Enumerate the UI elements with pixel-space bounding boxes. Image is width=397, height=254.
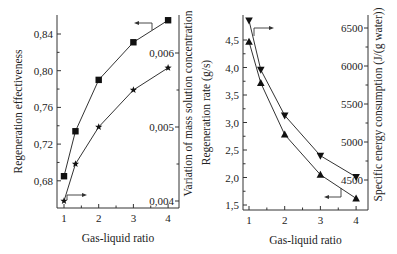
y2-tick-label: 5000	[341, 136, 364, 148]
x-axis-label: Gas-liquid ratio	[269, 234, 342, 247]
y2-tick-label: 6000	[341, 60, 364, 72]
axis-indicator-arrow	[137, 23, 152, 30]
x-tick-label: 1	[246, 214, 252, 226]
y2-tick-label: 4500	[341, 174, 364, 186]
axis-indicator-arrow	[254, 28, 271, 36]
x-tick-label: 3	[131, 212, 137, 224]
triangle-up-marker	[352, 194, 360, 201]
square-marker	[130, 39, 136, 45]
y-tick-label: 2,5	[225, 144, 239, 156]
y2-tick-label: 6500	[341, 22, 364, 34]
right-chart: 12341,52,02,53,03,54,04,5450050005500600…	[200, 7, 385, 247]
y-tick-label: 0,76	[34, 101, 54, 113]
y-tick-label: 0,80	[34, 65, 54, 77]
x-tick-label: 2	[282, 214, 288, 226]
triangle-up-marker	[245, 38, 253, 45]
y2-axis-label: Variation of mass solution concentration	[182, 10, 194, 196]
x-axis-label: Gas-liquid ratio	[82, 232, 155, 245]
y-tick-label: 2,0	[225, 172, 239, 184]
y2-tick-label: 0,004	[149, 195, 174, 207]
y-tick-label: 4,5	[225, 34, 239, 46]
triangle-down-marker	[245, 17, 253, 24]
axis-indicator-arrow	[327, 188, 341, 197]
square-marker	[96, 77, 102, 83]
x-tick-label: 1	[61, 212, 67, 224]
square-marker	[61, 173, 67, 179]
star-marker	[60, 197, 67, 204]
series-line	[64, 68, 168, 201]
x-tick-label: 2	[96, 212, 102, 224]
square-marker	[72, 128, 78, 134]
y2-tick-label: 0,005	[149, 121, 174, 133]
x-tick-label: 3	[318, 214, 324, 226]
y-tick-label: 0,68	[34, 175, 54, 187]
triangle-up-marker	[281, 131, 289, 138]
y-tick-label: 0,84	[34, 28, 54, 40]
square-marker	[165, 17, 171, 23]
y-axis-label: Regeneration rate (g/s)	[200, 60, 213, 166]
chart-canvas: 12340,680,720,760,800,840,0040,0050,006G…	[0, 0, 397, 254]
y2-axis-label: Specific energy consumption (J/(g water)…	[372, 7, 385, 201]
x-tick-label: 4	[165, 212, 171, 224]
y-tick-label: 4,0	[225, 62, 239, 74]
triangle-up-marker	[257, 79, 265, 86]
y-tick-label: 3,5	[225, 89, 239, 101]
left-chart: 12340,680,720,760,800,840,0040,0050,006G…	[12, 10, 194, 245]
y-tick-label: 1,5	[225, 199, 239, 211]
y2-tick-label: 0,006	[149, 47, 174, 59]
star-marker	[72, 160, 79, 167]
series-line	[64, 20, 168, 176]
y-tick-label: 3,0	[225, 117, 239, 129]
x-tick-label: 4	[353, 214, 359, 226]
y-axis-label: Regeneration effectiveness	[12, 49, 25, 174]
axis-indicator-arrow	[67, 195, 84, 200]
y2-tick-label: 5500	[341, 98, 364, 110]
triangle-down-marker	[317, 153, 325, 160]
y-tick-label: 0,72	[34, 138, 53, 150]
figure: 12340,680,720,760,800,840,0040,0050,006G…	[0, 0, 397, 254]
